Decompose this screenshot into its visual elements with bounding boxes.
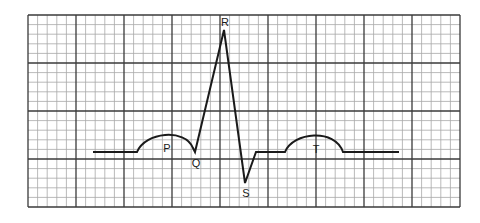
label-t-wave: T <box>313 143 320 155</box>
label-p-wave: P <box>163 142 170 154</box>
label-s-wave: S <box>242 187 249 199</box>
label-q-wave: Q <box>192 157 201 169</box>
ecg-diagram: P Q R S T <box>0 0 480 223</box>
label-r-wave: R <box>221 16 229 28</box>
ecg-trace <box>93 30 399 183</box>
